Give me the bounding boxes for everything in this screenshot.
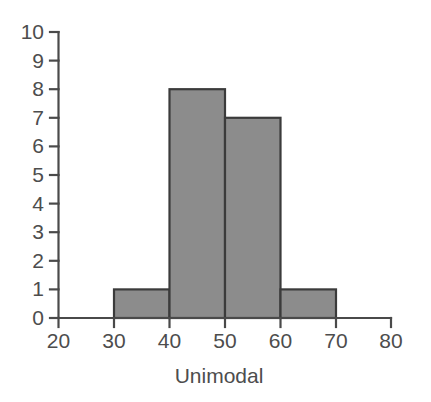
x-tick-label-20: 20 bbox=[47, 329, 70, 352]
bar-bin-30-40 bbox=[114, 289, 170, 318]
x-tick-label-30: 30 bbox=[102, 329, 125, 352]
y-tick-label-4: 4 bbox=[32, 192, 44, 215]
y-tick-label-7: 7 bbox=[32, 106, 44, 129]
x-axis-title: Unimodal bbox=[175, 364, 264, 387]
histogram-canvas: 10 9 8 7 6 5 4 3 2 1 0 20 30 40 50 60 70… bbox=[0, 0, 431, 402]
y-tick-label-8: 8 bbox=[32, 77, 44, 100]
bar-bin-40-50 bbox=[170, 89, 226, 318]
x-tick-label-50: 50 bbox=[213, 329, 236, 352]
x-tick-label-40: 40 bbox=[158, 329, 181, 352]
y-tick-label-10: 10 bbox=[21, 20, 44, 43]
x-tick-label-80: 80 bbox=[379, 329, 402, 352]
y-tick-label-6: 6 bbox=[32, 134, 44, 157]
histogram-chart: 10 9 8 7 6 5 4 3 2 1 0 20 30 40 50 60 70… bbox=[0, 0, 431, 402]
x-tick-label-70: 70 bbox=[324, 329, 347, 352]
y-tick-label-5: 5 bbox=[32, 163, 44, 186]
y-tick-label-3: 3 bbox=[32, 220, 44, 243]
bar-bin-50-60 bbox=[225, 118, 281, 318]
y-tick-label-1: 1 bbox=[32, 277, 44, 300]
x-tick-label-60: 60 bbox=[269, 329, 292, 352]
bar-bin-60-70 bbox=[281, 289, 337, 318]
y-tick-label-0: 0 bbox=[32, 306, 44, 329]
y-tick-label-9: 9 bbox=[32, 49, 44, 72]
y-tick-label-2: 2 bbox=[32, 249, 44, 272]
